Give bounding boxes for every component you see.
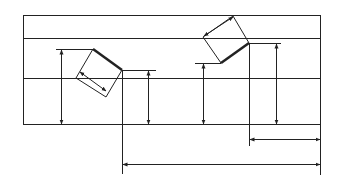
left-part-width-dimension	[80, 72, 106, 91]
left-part	[56, 49, 156, 174]
right-part-bold-edge	[221, 43, 249, 63]
dimension-diagram	[0, 0, 338, 189]
right-part-outline	[203, 16, 249, 63]
right-part-width-dimension	[204, 17, 233, 36]
left-part-bold-edge	[93, 49, 122, 70]
right-part	[195, 16, 281, 146]
left-part-outline	[76, 49, 122, 97]
